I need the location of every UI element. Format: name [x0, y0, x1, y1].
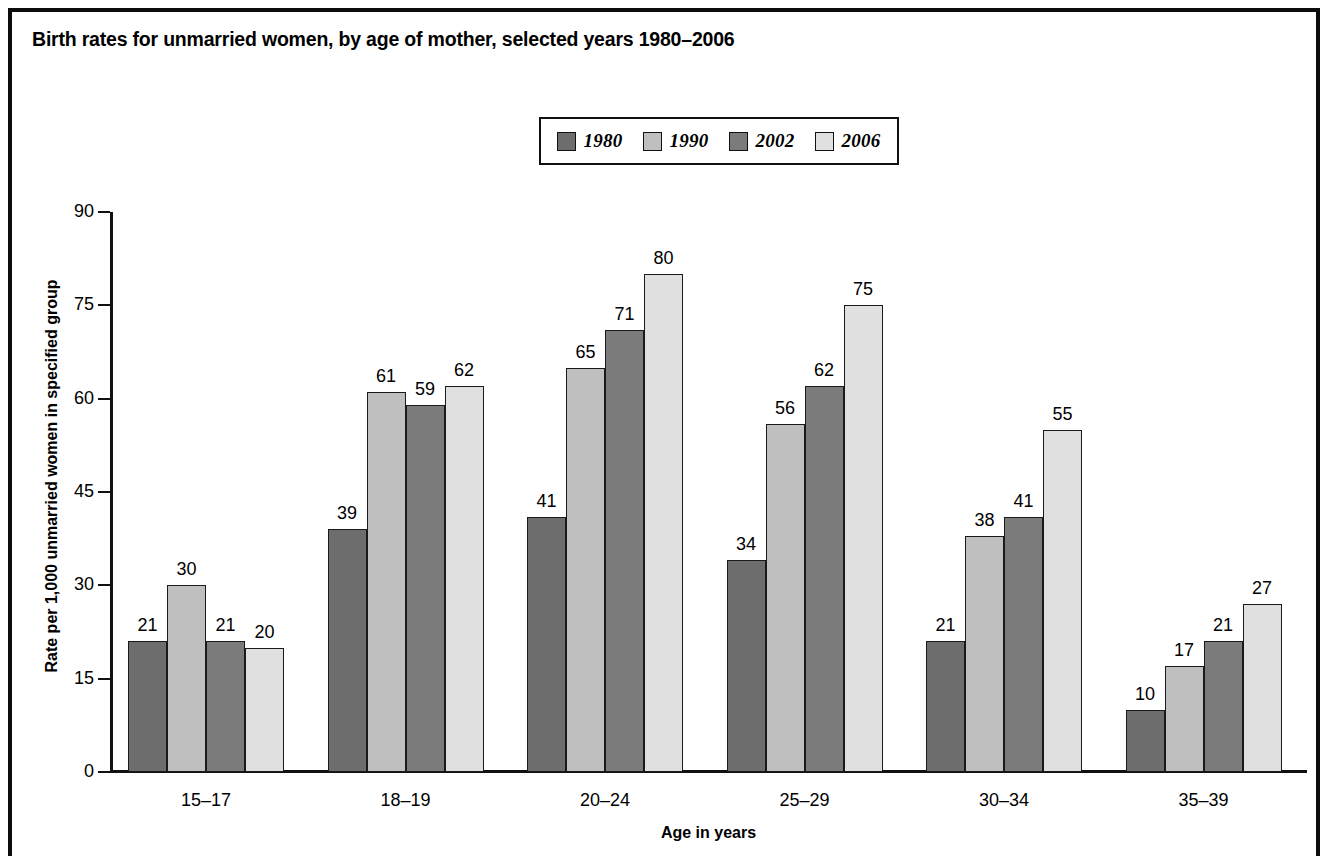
bar-1990-25-29[interactable] [766, 424, 805, 772]
bars-layer: 2130212039615962416571803456627521384155… [110, 212, 1307, 772]
bar-1980-18-19[interactable] [328, 529, 367, 772]
y-axis-tick-label: 0 [48, 761, 94, 782]
figure-frame: Birth rates for unmarried women, by age … [8, 8, 1320, 856]
y-axis-tick [98, 304, 110, 306]
bar-value-label: 20 [233, 622, 296, 643]
bar-1980-15-17[interactable] [128, 641, 167, 772]
bar-2002-35-39[interactable] [1204, 641, 1243, 772]
bar-1990-15-17[interactable] [167, 585, 206, 772]
y-axis-tick [98, 491, 110, 493]
y-axis-title: Rate per 1,000 unmarried women in specif… [43, 266, 61, 686]
bar-group-25-29: 34566275 [727, 212, 883, 772]
y-axis-tick-label: 75 [48, 294, 94, 315]
x-axis-tick-label: 18–19 [346, 790, 466, 811]
x-axis-tick-label: 30–34 [944, 790, 1064, 811]
bar-2006-35-39[interactable] [1243, 604, 1282, 772]
bar-2002-20-24[interactable] [605, 330, 644, 772]
x-axis-tick-label: 20–24 [545, 790, 665, 811]
bar-value-label: 62 [433, 360, 496, 381]
plot-area: Rate per 1,000 unmarried women in specif… [12, 12, 1316, 856]
bar-1980-25-29[interactable] [727, 560, 766, 772]
y-axis-tick-label: 90 [48, 201, 94, 222]
bar-2006-18-19[interactable] [445, 386, 484, 772]
bar-1990-30-34[interactable] [965, 536, 1004, 772]
y-axis-tick [98, 771, 110, 773]
bar-group-30-34: 21384155 [926, 212, 1082, 772]
bar-2002-18-19[interactable] [406, 405, 445, 772]
bar-1980-30-34[interactable] [926, 641, 965, 772]
bar-value-label: 55 [1031, 404, 1094, 425]
y-axis-tick [98, 584, 110, 586]
x-axis-title: Age in years [110, 824, 1307, 842]
bar-group-20-24: 41657180 [527, 212, 683, 772]
y-axis-tick-label: 60 [48, 388, 94, 409]
bar-value-label: 30 [155, 559, 218, 580]
x-axis-tick-label: 25–29 [745, 790, 865, 811]
bar-2006-15-17[interactable] [245, 648, 284, 772]
bar-2002-30-34[interactable] [1004, 517, 1043, 772]
bar-group-18-19: 39615962 [328, 212, 484, 772]
bar-2002-25-29[interactable] [805, 386, 844, 772]
bar-2006-20-24[interactable] [644, 274, 683, 772]
bar-2006-30-34[interactable] [1043, 430, 1082, 772]
y-axis-tick [98, 211, 110, 213]
bar-1980-35-39[interactable] [1126, 710, 1165, 772]
y-axis-tick-label: 30 [48, 574, 94, 595]
bar-2002-15-17[interactable] [206, 641, 245, 772]
x-axis-tick-label: 15–17 [146, 790, 266, 811]
bar-1990-18-19[interactable] [367, 392, 406, 772]
bar-group-35-39: 10172127 [1126, 212, 1282, 772]
bar-value-label: 27 [1231, 578, 1294, 599]
bar-value-label: 80 [632, 248, 695, 269]
bar-1980-20-24[interactable] [527, 517, 566, 772]
y-axis-tick [98, 398, 110, 400]
y-axis-tick-label: 15 [48, 668, 94, 689]
bar-1990-20-24[interactable] [566, 368, 605, 772]
bar-2006-25-29[interactable] [844, 305, 883, 772]
x-axis-tick-label: 35–39 [1144, 790, 1264, 811]
bar-1990-35-39[interactable] [1165, 666, 1204, 772]
bar-group-15-17: 21302120 [128, 212, 284, 772]
y-axis-tick [98, 678, 110, 680]
y-axis-tick-label: 45 [48, 481, 94, 502]
bar-value-label: 75 [832, 279, 895, 300]
